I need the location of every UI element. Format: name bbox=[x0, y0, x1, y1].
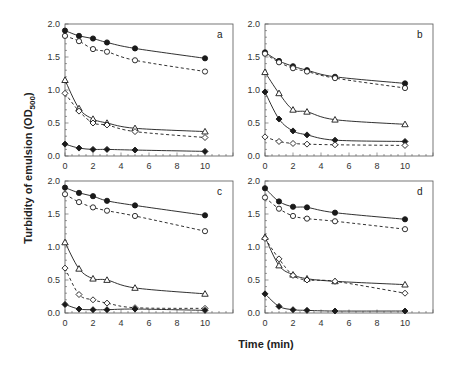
filled-diamond-marker bbox=[132, 147, 138, 153]
y-tick-label: 0.0 bbox=[47, 151, 60, 161]
open-triangle-marker bbox=[262, 69, 268, 75]
panel-letter: d bbox=[417, 186, 423, 197]
open-circle-marker bbox=[262, 195, 267, 200]
filled-circle-marker bbox=[104, 40, 109, 45]
open-triangle-marker bbox=[276, 262, 282, 268]
open-diamond-marker bbox=[290, 140, 296, 146]
filled-diamond-marker bbox=[276, 303, 282, 309]
open-circle-marker bbox=[104, 49, 109, 54]
y-tick-label: 0.5 bbox=[47, 118, 60, 128]
panel-letter: a bbox=[217, 29, 223, 40]
x-tick-label: 0 bbox=[262, 318, 267, 328]
open-circle-marker bbox=[202, 69, 207, 74]
open-diamond-marker bbox=[76, 292, 82, 298]
open-diamond-marker bbox=[104, 300, 110, 306]
open-circle-marker bbox=[290, 66, 295, 71]
x-tick-label: 10 bbox=[200, 318, 210, 328]
panels-group: 02468100.00.51.01.52.0a02468100.00.51.01… bbox=[47, 19, 433, 328]
x-tick-label: 0 bbox=[262, 161, 267, 171]
open-diamond-marker bbox=[402, 290, 408, 296]
filled-circle-marker bbox=[62, 185, 67, 190]
filled-diamond-marker bbox=[76, 306, 82, 312]
filled-diamond-marker bbox=[290, 307, 296, 313]
filled-circle-marker bbox=[90, 36, 95, 41]
y-tick-label: 2.0 bbox=[47, 176, 60, 186]
filled-diamond-marker bbox=[62, 301, 68, 307]
filled-diamond-marker bbox=[104, 146, 110, 152]
y-tick-label: 1.5 bbox=[247, 209, 260, 219]
open-circle-marker bbox=[304, 69, 309, 74]
filled-circle-marker bbox=[76, 190, 81, 195]
open-circle-marker bbox=[332, 76, 337, 81]
y-tick-label: 0.5 bbox=[247, 275, 260, 285]
open-triangle-curve bbox=[65, 80, 205, 131]
plot-frame bbox=[65, 181, 233, 313]
panel-b: 02468100.00.51.01.52.0b bbox=[247, 19, 433, 171]
y-tick-label: 0.5 bbox=[247, 118, 260, 128]
open-circle-marker bbox=[104, 208, 109, 213]
y-axis-title: Turbidity of emulsion (OD500) bbox=[22, 92, 37, 244]
y-tick-label: 1.0 bbox=[247, 85, 260, 95]
x-axis-title: Time (min) bbox=[238, 338, 294, 350]
panel-letter: c bbox=[217, 186, 222, 197]
y-axis-subscript: 500 bbox=[28, 96, 37, 110]
x-tick-label: 2 bbox=[290, 318, 295, 328]
open-circle-curve bbox=[265, 54, 405, 88]
open-diamond-marker bbox=[90, 297, 96, 303]
x-tick-label: 4 bbox=[318, 161, 323, 171]
filled-circle-marker bbox=[132, 46, 137, 51]
open-circle-marker bbox=[332, 219, 337, 224]
open-circle-marker bbox=[276, 60, 281, 65]
y-tick-label: 0.5 bbox=[47, 275, 60, 285]
filled-circle-curve bbox=[65, 31, 205, 59]
x-tick-label: 8 bbox=[374, 161, 379, 171]
filled-circle-marker bbox=[402, 217, 407, 222]
panel-letter: b bbox=[417, 29, 423, 40]
filled-diamond-marker bbox=[304, 307, 310, 313]
x-tick-label: 6 bbox=[346, 161, 351, 171]
y-tick-label: 1.5 bbox=[47, 209, 60, 219]
y-tick-label: 0.0 bbox=[47, 308, 60, 318]
filled-diamond-marker bbox=[290, 128, 296, 134]
figure: 02468100.00.51.01.52.0a02468100.00.51.01… bbox=[0, 0, 453, 368]
filled-diamond-marker bbox=[62, 141, 68, 147]
open-circle-marker bbox=[90, 46, 95, 51]
open-circle-marker bbox=[262, 51, 267, 56]
filled-circle-marker bbox=[62, 28, 67, 33]
open-circle-marker bbox=[304, 216, 309, 221]
open-diamond-marker bbox=[262, 134, 268, 140]
filled-diamond-marker bbox=[202, 148, 208, 154]
x-tick-label: 2 bbox=[290, 161, 295, 171]
open-diamond-marker bbox=[262, 235, 268, 241]
plot-frame bbox=[65, 24, 233, 156]
open-triangle-marker bbox=[90, 275, 96, 281]
open-circle-marker bbox=[402, 85, 407, 90]
y-tick-label: 1.5 bbox=[247, 52, 260, 62]
filled-circle-marker bbox=[104, 198, 109, 203]
filled-diamond-marker bbox=[90, 146, 96, 152]
open-circle-marker bbox=[202, 229, 207, 234]
open-diamond-curve bbox=[265, 238, 405, 293]
filled-diamond-marker bbox=[104, 307, 110, 313]
open-circle-marker bbox=[62, 33, 67, 38]
filled-circle-marker bbox=[262, 186, 267, 191]
x-tick-label: 10 bbox=[400, 161, 410, 171]
y-tick-label: 0.0 bbox=[247, 308, 260, 318]
y-tick-label: 1.5 bbox=[47, 52, 60, 62]
x-tick-label: 2 bbox=[90, 318, 95, 328]
y-tick-label: 2.0 bbox=[247, 176, 260, 186]
x-tick-label: 10 bbox=[400, 318, 410, 328]
y-tick-label: 2.0 bbox=[247, 19, 260, 29]
filled-circle-marker bbox=[202, 213, 207, 218]
open-circle-marker bbox=[402, 227, 407, 232]
filled-circle-marker bbox=[276, 199, 281, 204]
x-tick-label: 0 bbox=[62, 318, 67, 328]
x-tick-label: 8 bbox=[174, 318, 179, 328]
open-triangle-marker bbox=[62, 239, 68, 245]
open-triangle-marker bbox=[76, 266, 82, 272]
filled-circle-curve bbox=[65, 188, 205, 216]
x-tick-label: 0 bbox=[62, 161, 67, 171]
x-tick-label: 8 bbox=[374, 318, 379, 328]
x-tick-label: 4 bbox=[118, 318, 123, 328]
x-tick-label: 10 bbox=[200, 161, 210, 171]
